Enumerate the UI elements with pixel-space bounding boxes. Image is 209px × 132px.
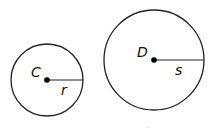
circle-d: D s	[104, 10, 204, 110]
circle-c: C r	[11, 44, 83, 116]
center-c-point	[44, 77, 50, 83]
speck	[147, 126, 148, 127]
radius-r-label: r	[61, 82, 68, 98]
center-c-label: C	[31, 64, 41, 80]
circles-diagram: C r D s	[0, 0, 209, 132]
center-d-label: D	[137, 44, 148, 60]
center-d-point	[151, 57, 157, 63]
radius-s-label: s	[175, 62, 182, 78]
